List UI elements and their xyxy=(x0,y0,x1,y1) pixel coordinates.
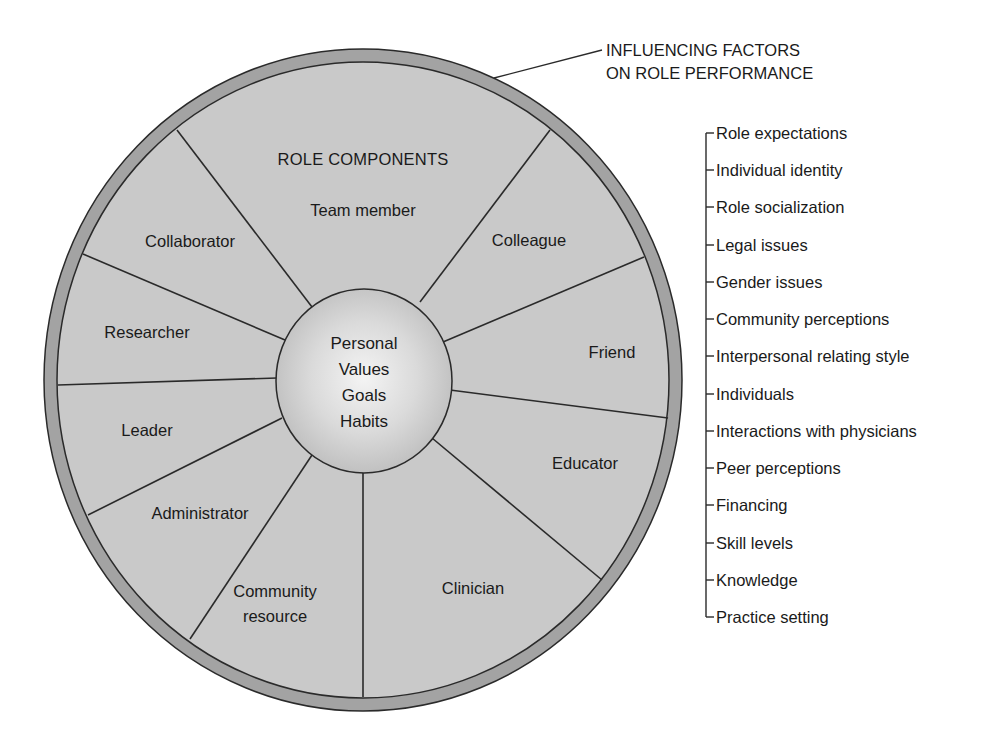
influencing-factors-list: Role expectations Individual identity Ro… xyxy=(716,124,917,626)
segment-label-community-resource-line2: resource xyxy=(243,607,307,625)
segment-label-administrator: Administrator xyxy=(151,504,249,522)
factor-item: Individual identity xyxy=(716,161,843,179)
center-label-values: Values xyxy=(339,360,390,379)
center-label-personal: Personal xyxy=(330,334,397,353)
role-components-diagram: ROLE COMPONENTS Team member Colleague Fr… xyxy=(0,0,1002,741)
factor-item: Practice setting xyxy=(716,608,829,626)
factor-item: Interpersonal relating style xyxy=(716,347,910,365)
center-label-goals: Goals xyxy=(342,386,386,405)
segment-label-collaborator: Collaborator xyxy=(145,232,235,250)
center-label-habits: Habits xyxy=(340,412,388,431)
role-components-title: ROLE COMPONENTS xyxy=(278,150,449,168)
segment-label-friend: Friend xyxy=(589,343,636,361)
callout-label-line2: ON ROLE PERFORMANCE xyxy=(606,64,813,82)
factor-item: Legal issues xyxy=(716,236,808,254)
factor-item: Community perceptions xyxy=(716,310,889,328)
segment-label-team-member: Team member xyxy=(310,201,416,219)
segment-label-leader: Leader xyxy=(121,421,173,439)
center-hub xyxy=(276,289,452,473)
segment-label-educator: Educator xyxy=(552,454,619,472)
factor-item: Peer perceptions xyxy=(716,459,841,477)
factor-item: Knowledge xyxy=(716,571,798,589)
factor-item: Gender issues xyxy=(716,273,822,291)
influencing-factors-bracket xyxy=(706,133,714,617)
factor-item: Role socialization xyxy=(716,198,844,216)
segment-label-colleague: Colleague xyxy=(492,231,566,249)
callout-pointer-line xyxy=(494,50,602,78)
segment-label-clinician: Clinician xyxy=(442,579,504,597)
callout-label-line1: INFLUENCING FACTORS xyxy=(606,41,800,59)
factor-item: Skill levels xyxy=(716,534,793,552)
factor-item: Individuals xyxy=(716,385,794,403)
factor-item: Interactions with physicians xyxy=(716,422,917,440)
factor-item: Role expectations xyxy=(716,124,847,142)
segment-label-researcher: Researcher xyxy=(104,323,190,341)
factor-item: Financing xyxy=(716,496,788,514)
segment-label-community-resource-line1: Community xyxy=(233,582,317,600)
